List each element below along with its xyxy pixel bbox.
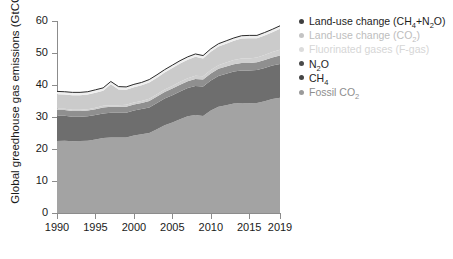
y-axis-tick-label: 0 [42, 206, 48, 218]
chart-figure: Global greedhouse gas emissions (GtCO2e)… [0, 0, 453, 259]
y-axis-title-text: Global greedhouse gas emissions (GtCO2e) [9, 0, 21, 204]
y-axis-tick-label: 20 [36, 142, 48, 154]
plot-area [57, 21, 280, 213]
y-axis-tick-label: 10 [36, 174, 48, 186]
x-axis-tick [280, 214, 281, 219]
legend-marker-icon [299, 19, 304, 24]
x-axis-tick [57, 214, 58, 219]
x-axis-line [57, 213, 281, 214]
legend-item[interactable]: Land-use change (CH4+N2O) [299, 14, 449, 28]
x-axis-tick [211, 214, 212, 219]
x-axis-tick-label: 2010 [199, 221, 223, 233]
legend-marker-icon [299, 75, 304, 80]
y-axis-tick-label: 40 [36, 78, 48, 90]
legend-marker-icon [299, 90, 304, 95]
y-axis-tick-label: 30 [36, 110, 48, 122]
legend-marker-icon [299, 47, 304, 52]
x-axis-tick-label: 2000 [122, 221, 146, 233]
legend-marker-icon [299, 61, 304, 66]
legend-item-label: Fluorinated gases (F-gas) [309, 42, 429, 56]
x-axis-tick [249, 214, 250, 219]
legend-item[interactable]: N2O [299, 57, 449, 71]
x-axis-tick-label: 2005 [160, 221, 184, 233]
x-axis-tick-label: 1990 [45, 221, 69, 233]
legend-item[interactable]: Fossil CO2 [299, 85, 449, 99]
legend-marker-icon [299, 33, 304, 38]
legend-item[interactable]: CH4 [299, 71, 449, 85]
y-axis-title: Global greedhouse gas emissions (GtCO2e) [9, 4, 24, 204]
stacked-area-series [57, 21, 280, 213]
x-axis-tick-label: 2019 [268, 221, 292, 233]
x-axis-tick-label: 2015 [237, 221, 261, 233]
legend-item-label: Fossil CO2 [309, 85, 359, 104]
x-axis-tick-label: 1995 [83, 221, 107, 233]
y-axis-tick-label: 50 [36, 46, 48, 58]
x-axis-tick [95, 214, 96, 219]
y-axis-tick-label: 60 [36, 14, 48, 26]
x-axis-tick [134, 214, 135, 219]
legend-item[interactable]: Fluorinated gases (F-gas) [299, 42, 449, 56]
chart-legend: Land-use change (CH4+N2O)Land-use change… [299, 14, 449, 99]
x-axis-tick [172, 214, 173, 219]
